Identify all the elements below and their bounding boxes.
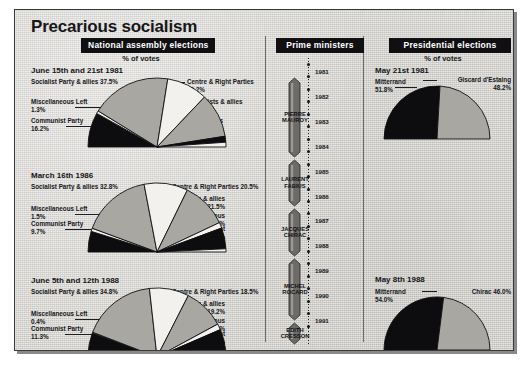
timeline-year: 1987: [315, 217, 329, 224]
presidential-date-1981: May 21st 1981: [375, 66, 429, 75]
pm-name: JACQUESCHIRAC: [267, 226, 323, 240]
label-text: Socialist Party & allies: [31, 78, 98, 85]
label-chirac-1988: Chirac 46.0%: [439, 288, 511, 296]
pm-name-line1: MICHEL: [267, 283, 323, 290]
label-pct: 37.5%: [100, 78, 118, 85]
infographic-page: Precarious socialism National assembly e…: [0, 0, 530, 367]
pm-name-line2: MAUROY: [267, 117, 323, 124]
leader-giscard-1981: [423, 80, 437, 81]
label-pct: 34.8%: [100, 288, 118, 295]
pie-slice: [157, 350, 226, 351]
column-divider-left: [265, 36, 266, 342]
timeline-dot: [307, 275, 310, 278]
timeline-year: 1981: [315, 68, 329, 75]
pm-name-line2: FABIUS: [267, 183, 323, 190]
chart-date-1986: March 16th 1986: [31, 171, 93, 180]
timeline-dot: [307, 150, 310, 153]
halfpie-1988: [88, 295, 228, 351]
label-pct: 32.8%: [100, 183, 118, 190]
pm-name-line2: CHIRAC: [267, 232, 323, 239]
pm-name-line1: EDITH: [267, 327, 323, 334]
column-divider-right: [363, 36, 364, 342]
pm-name-line2: ROCARD: [267, 289, 323, 296]
halfpie-presidential-1981: [383, 86, 491, 140]
label-text: Socialist Party & allies: [31, 183, 98, 190]
timeline-dot: [307, 262, 310, 265]
presidential-date-1988: May 8th 1988: [375, 275, 425, 284]
pm-name-line1: JACQUES: [267, 226, 323, 233]
label-text: Mitterrand: [375, 288, 406, 296]
label-communist-1988: Communist Party 11.3%: [31, 325, 83, 340]
assembly-chart-1988: June 5th and 12th 1988 Socialist Party &…: [15, 220, 265, 330]
pm-name-line1: LAURENT: [267, 176, 323, 183]
label-text: Chirac 46.0%: [439, 288, 511, 296]
timeline-dot: [307, 88, 310, 91]
poster-panel: Precarious socialism National assembly e…: [14, 9, 514, 351]
pie-slice: [384, 86, 440, 139]
timeline-year: 1991: [315, 317, 329, 324]
timeline-year: 1984: [315, 143, 329, 150]
assembly-chart-1981: June 15th and 21st 1981 Socialist Party …: [15, 10, 265, 120]
label-text: Miscellaneous Left: [31, 98, 87, 106]
timeline-dot: [307, 125, 310, 128]
timeline-year: 1989: [315, 267, 329, 274]
timeline-dot: [307, 63, 310, 66]
timeline-dot: [307, 250, 310, 253]
pm-name: MICHELROCARD: [267, 283, 323, 297]
timeline-dot: [307, 163, 310, 166]
chart-date-1988: June 5th and 12th 1988: [31, 276, 119, 285]
chart-date-1981: June 15th and 21st 1981: [31, 66, 123, 75]
presidential-chart-1981: May 21st 1981 Mitterrand 51.8% Giscard d…: [365, 10, 513, 160]
label-text: Miscellaneous Left: [31, 310, 87, 318]
timeline-dot: [307, 100, 310, 103]
pm-name: LAURENTFABIUS: [267, 176, 323, 190]
leader-chirac-1988: [422, 291, 437, 292]
pm-name-line2: CRESSON: [267, 333, 323, 340]
timeline-year: 1982: [315, 93, 329, 100]
timeline-dot: [307, 300, 310, 303]
timeline-dot: [307, 138, 310, 141]
timeline-year: 1988: [315, 242, 329, 249]
presidential-chart-1988: May 8th 1988 Mitterrand 54.0% Chirac 46.…: [365, 215, 513, 345]
label-text: Giscard d'Estaing: [439, 76, 511, 84]
halfpie-presidential-1988: [383, 297, 491, 351]
label-text: Communist Party: [31, 325, 83, 333]
timeline-year: 1986: [315, 193, 329, 200]
timeline-dot: [307, 200, 310, 203]
pm-name: EDITHCRESSON: [267, 327, 323, 341]
label-text: Miscellaneous Left: [31, 205, 87, 213]
pie-slice: [437, 297, 490, 350]
label-text: Socialist Party & allies: [31, 288, 98, 295]
prime-ministers-timeline: 1981198219831984198519861987198819891990…: [267, 10, 363, 350]
pie-slice: [384, 297, 444, 350]
pm-name: PIERREMAUROY: [267, 111, 323, 125]
pie-slice: [437, 86, 490, 139]
label-misc-left-1986: Miscellaneous Left 1.5%: [31, 205, 87, 220]
label-misc-left-1988: Miscellaneous Left 0.4%: [31, 310, 87, 325]
timeline-dot: [307, 312, 310, 315]
timeline-year: 1985: [315, 168, 329, 175]
label-text: Mitterrand: [375, 78, 406, 86]
assembly-chart-1986: March 16th 1986 Socialist Party & allies…: [15, 115, 265, 220]
label-misc-left-1981: Miscellaneous Left 1.3%: [31, 98, 87, 113]
pm-name-line1: PIERRE: [267, 111, 323, 118]
